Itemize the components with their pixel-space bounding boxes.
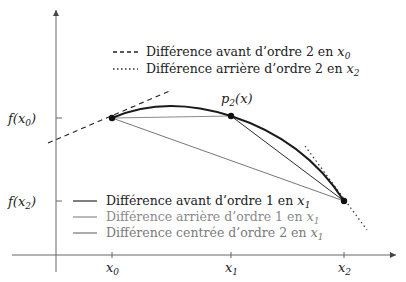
point-p2 — [341, 198, 347, 204]
curve-p2 — [112, 106, 344, 201]
secant-forward-order1-x1 — [231, 116, 344, 201]
x-label-x0: x0 — [106, 260, 119, 277]
legend-top: Différence avant d’ordre 2 en x0 Différe… — [113, 44, 360, 78]
x-label-x2: x2 — [338, 260, 351, 277]
y-label-f-x2: f(x2) — [7, 194, 36, 211]
legend-item-backward-order1: Différence arrière d’ordre 1 en x1 — [106, 209, 320, 226]
legend-item-backward-order2: Différence arrière d’ordre 2 en x2 — [146, 61, 360, 78]
x-label-x1: x1 — [225, 260, 238, 277]
curve-label: p2(x) — [221, 91, 253, 108]
legend-item-forward-order2: Différence avant d’ordre 2 en x0 — [146, 44, 351, 61]
point-p1 — [228, 113, 234, 119]
secant-backward-order1-x1 — [112, 116, 231, 118]
point-p0 — [109, 115, 115, 121]
legend-item-forward-order1: Différence avant d’ordre 1 en x1 — [106, 193, 310, 210]
y-label-f-x0: f(x0) — [7, 111, 36, 128]
legend-bottom: Différence avant d’ordre 1 en x1 Différe… — [73, 193, 324, 242]
legend-item-centered-order2: Différence centrée d’ordre 2 en x1 — [106, 225, 324, 242]
finite-difference-diagram: p2(x) f(x0) f(x2) x0 x1 x2 Différence av… — [0, 0, 406, 282]
